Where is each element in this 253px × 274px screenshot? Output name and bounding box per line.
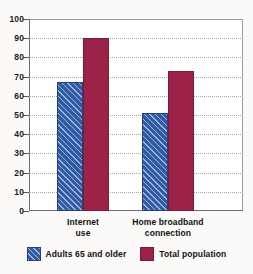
legend-item-0: Adults 65 and older (27, 247, 127, 261)
y-axis-tick-label: 30 (0, 148, 24, 158)
gridline (29, 77, 243, 78)
bar-total-population-0 (83, 38, 109, 211)
y-axis-tick-label: 80 (0, 52, 24, 62)
legend-item-1: Total population (140, 247, 226, 261)
chart-plot-container: 0102030405060708090100 InternetuseHome b… (0, 0, 253, 230)
chart-legend: Adults 65 and older Total population (0, 247, 253, 261)
y-axis-tick-label: 20 (0, 168, 24, 178)
bar-adults-65-and-older-0 (57, 82, 83, 211)
y-axis-tick-label: 60 (0, 91, 24, 101)
y-axis-tick-label: 50 (0, 110, 24, 120)
y-axis-tick-label: 40 (0, 129, 24, 139)
x-axis-label-line: Home broadband (113, 217, 223, 228)
y-axis-tick-label: 0 (0, 206, 24, 216)
y-axis-tick-label: 10 (0, 187, 24, 197)
y-axis-tick-label: 90 (0, 33, 24, 43)
legend-label-1: Total population (159, 249, 226, 259)
chart-figure: 0102030405060708090100 InternetuseHome b… (0, 0, 253, 274)
x-axis-label-line: connection (113, 228, 223, 239)
gridline (29, 57, 243, 58)
legend-label-0: Adults 65 and older (46, 249, 127, 259)
y-axis-tick-label: 100 (0, 14, 24, 24)
blue-hatched-swatch (27, 247, 41, 261)
gridline (29, 38, 243, 39)
bar-total-population-1 (168, 71, 194, 211)
bar-adults-65-and-older-1 (142, 113, 168, 211)
red-solid-swatch (140, 247, 154, 261)
y-axis-tick-label: 70 (0, 72, 24, 82)
x-axis-label-1: Home broadbandconnection (113, 217, 223, 239)
